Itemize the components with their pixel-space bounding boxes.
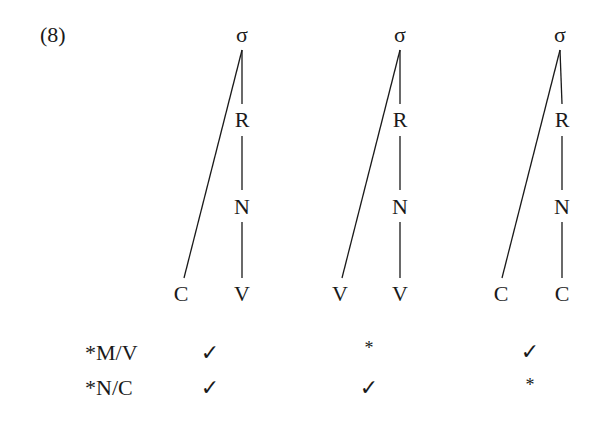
tree1-nucleus: N: [234, 196, 250, 218]
tree2-onset-branch: [342, 50, 400, 278]
check-icon: ✓: [360, 377, 378, 399]
tree3-root-rime-branch: [560, 50, 562, 104]
tree1-left-leaf: C: [174, 283, 189, 305]
tree2-rime: R: [393, 109, 408, 131]
tree2-right-leaf: V: [392, 283, 408, 305]
violation-star: *: [365, 337, 374, 359]
tree1-root-sigma: σ: [236, 24, 248, 46]
tree2-left-leaf: V: [332, 283, 348, 305]
tree3-nucleus: N: [554, 196, 570, 218]
violation-star: *: [526, 374, 535, 396]
check-icon: ✓: [201, 377, 219, 399]
tree3-onset-branch: [502, 50, 560, 278]
tree3-left-leaf: C: [494, 283, 509, 305]
tree3-root-sigma: σ: [554, 24, 566, 46]
tree1-right-leaf: V: [234, 283, 250, 305]
constraint-label: *N/C: [85, 377, 133, 399]
tree2-nucleus: N: [392, 196, 408, 218]
tree2-root-sigma: σ: [394, 24, 406, 46]
tree3-rime: R: [555, 109, 570, 131]
check-icon: ✓: [521, 341, 539, 363]
tree3-right-leaf: C: [555, 283, 570, 305]
tree1-onset-branch: [184, 50, 242, 278]
check-icon: ✓: [201, 342, 219, 364]
tree1-rime: R: [235, 109, 250, 131]
constraint-label: *M/V: [85, 342, 138, 364]
